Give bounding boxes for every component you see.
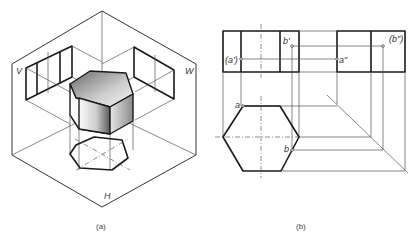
label-b-side: (b") (389, 34, 403, 44)
point-b-front (291, 45, 294, 48)
point-b-side (382, 45, 385, 48)
label-a-side: a" (339, 55, 348, 65)
top-view-hexagon (215, 96, 302, 178)
point-b-top (291, 149, 294, 152)
caption-a: (a) (96, 222, 106, 231)
isometric-view: V W H (a) (12, 11, 196, 231)
label-a-top: a (235, 100, 240, 110)
plane-label-w: W (185, 66, 195, 76)
orthographic-view: (a') b' a" (b") a b (b) (215, 24, 408, 231)
point-a-top (242, 105, 245, 108)
projection-figure: V W H (a) (0, 0, 410, 242)
front-view (223, 24, 299, 78)
caption-b: (b) (296, 222, 306, 231)
point-a-side (336, 58, 339, 61)
plane-label-v: V (16, 66, 23, 76)
label-b-front: b' (283, 36, 290, 46)
hexagonal-prism (70, 71, 133, 134)
plane-label-h: H (104, 191, 111, 201)
label-b-top: b (284, 144, 289, 154)
label-a-front: (a') (225, 55, 238, 65)
point-a-front (240, 58, 243, 61)
